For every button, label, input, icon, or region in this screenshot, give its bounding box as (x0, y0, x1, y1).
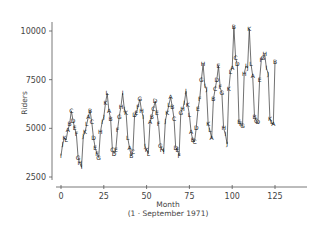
svg-text:J: J (225, 140, 228, 148)
svg-text:I: I (81, 163, 83, 170)
y-tick-label: 10000 (21, 27, 46, 36)
svg-text:G: G (96, 154, 101, 161)
x-tick-label: 0 (58, 192, 63, 201)
svg-text:I: I (60, 152, 62, 159)
svg-text:D: D (91, 134, 96, 141)
y-tick-label: 7500 (26, 76, 46, 85)
svg-text:K: K (247, 25, 252, 32)
svg-text:L: L (126, 134, 130, 141)
svg-text:B: B (109, 115, 113, 122)
svg-text:L: L (106, 89, 110, 96)
svg-text:J: J (164, 117, 167, 125)
svg-text:J: J (205, 85, 208, 93)
svg-text:E: E (155, 109, 159, 116)
svg-text:E: E (196, 105, 200, 112)
svg-text:J: J (266, 70, 269, 78)
svg-text:C: C (69, 107, 73, 114)
x-tick-label: 50 (142, 192, 152, 201)
svg-text:C: C (213, 85, 217, 92)
svg-text:C: C (90, 118, 94, 125)
svg-text:L: L (85, 120, 89, 127)
svg-text:H: H (262, 50, 267, 57)
svg-text:K: K (124, 109, 129, 116)
svg-text:J: J (61, 140, 64, 148)
svg-text:B: B (232, 23, 236, 30)
svg-text:D: D (71, 117, 76, 124)
svg-text:L: L (64, 136, 68, 143)
svg-text:B: B (88, 107, 92, 114)
svg-text:A: A (210, 134, 215, 141)
y-tick-label: 5000 (26, 124, 46, 133)
svg-text:C: C (172, 115, 176, 122)
svg-text:F: F (157, 120, 161, 127)
svg-text:G: G (240, 122, 245, 129)
svg-text:G: G (220, 89, 225, 96)
svg-text:D: D (256, 118, 261, 125)
svg-text:E: E (114, 146, 118, 153)
svg-text:B: B (273, 58, 277, 65)
svg-text:A: A (107, 107, 112, 114)
x-tick-label: 125 (267, 192, 282, 201)
svg-text:I: I (142, 113, 144, 120)
svg-text:J: J (246, 64, 249, 72)
svg-text:B: B (170, 103, 174, 110)
svg-text:I: I (122, 89, 124, 96)
svg-text:L: L (147, 150, 151, 157)
svg-text:K: K (186, 101, 191, 108)
svg-text:F: F (116, 126, 120, 133)
ridership-chart: 25005000750010000 0255075100125 Riders M… (0, 0, 320, 228)
svg-text:D: D (194, 124, 199, 131)
svg-text:A: A (251, 72, 256, 79)
x-tick-label: 100 (225, 192, 240, 201)
svg-text:D: D (235, 60, 240, 67)
svg-text:G: G (137, 95, 142, 102)
y-axis-title: Riders (20, 91, 29, 115)
svg-text:D: D (214, 76, 219, 83)
x-tick-label: 75 (184, 192, 194, 201)
x-axis: 0255075100125 (56, 185, 307, 201)
svg-text:D: D (153, 97, 158, 104)
x-axis-subtitle: (1 · September 1971) (128, 209, 209, 218)
svg-text:K: K (83, 128, 88, 135)
svg-text:B: B (211, 95, 215, 102)
svg-text:F: F (177, 152, 181, 159)
svg-text:I: I (163, 148, 165, 155)
svg-text:F: F (75, 130, 79, 137)
svg-text:C: C (192, 138, 196, 145)
svg-text:C: C (131, 148, 135, 155)
svg-text:L: L (249, 60, 253, 67)
svg-text:B: B (150, 113, 154, 120)
svg-text:J: J (102, 113, 105, 121)
x-tick-label: 25 (99, 192, 109, 201)
svg-text:E: E (217, 62, 221, 69)
svg-text:F: F (198, 95, 202, 102)
svg-text:E: E (258, 76, 262, 83)
svg-text:G: G (117, 113, 122, 120)
svg-text:H: H (98, 128, 103, 135)
x-axis-title: Month (156, 200, 180, 209)
svg-text:H: H (201, 60, 206, 67)
svg-text:A: A (271, 120, 276, 127)
month-symbols: IJKLABCDEFGHIJKLABCDEFGHIJKLABCDEFGHIJKL… (60, 23, 277, 170)
svg-text:I: I (224, 130, 226, 137)
y-tick-label: 2500 (26, 173, 46, 182)
svg-text:J: J (184, 87, 187, 95)
svg-text:A: A (169, 93, 174, 100)
svg-text:K: K (227, 85, 232, 92)
svg-text:L: L (188, 111, 192, 118)
